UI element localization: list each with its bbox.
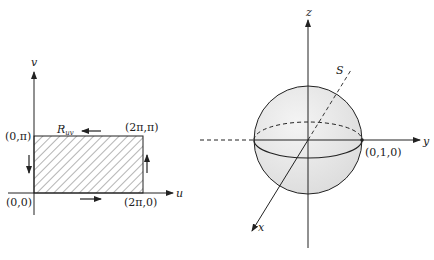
hatched-region: [34, 136, 143, 193]
point-marker: [360, 138, 364, 142]
surface-label: S: [336, 64, 344, 77]
x-axis-label: x: [258, 221, 265, 234]
corner-label-top-left: (0,π): [5, 130, 31, 143]
corner-label-bottom-left: (0,0): [6, 196, 32, 209]
corner-label-bottom-right: (2π,0): [124, 196, 157, 209]
u-axis-label: u: [176, 187, 183, 200]
y-axis-label: y: [422, 135, 430, 148]
sphere-figure: z y x S (0,1,0): [200, 6, 430, 248]
point-label: (0,1,0): [365, 146, 402, 159]
diagram-svg: v u Ruv (0,π) (2π,π) (0,0) (2π,0) z y x …: [0, 0, 434, 260]
parameter-domain-figure: v u Ruv (0,π) (2π,π) (0,0) (2π,0): [5, 56, 183, 215]
figure-canvas: v u Ruv (0,π) (2π,π) (0,0) (2π,0) z y x …: [0, 0, 434, 260]
region-label: Ruv: [56, 123, 74, 137]
z-axis-label: z: [305, 6, 312, 19]
corner-label-top-right: (2π,π): [125, 121, 159, 134]
v-axis-label: v: [31, 56, 38, 69]
